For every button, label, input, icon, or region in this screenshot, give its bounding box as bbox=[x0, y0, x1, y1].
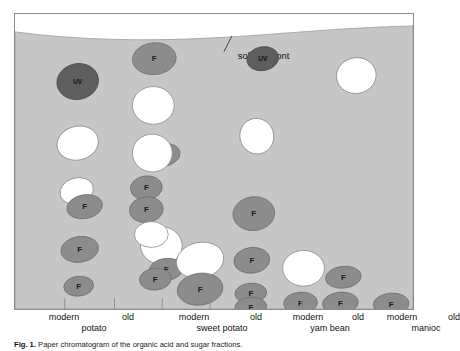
axis-crop-label: potato bbox=[81, 322, 106, 334]
chromatogram-plate: solvent front UVFFFFFFFFFFUVFFFFFFFF bbox=[15, 14, 413, 309]
white-spot-shape bbox=[134, 222, 168, 248]
white-spot-shape bbox=[132, 134, 172, 172]
white-spot-shape bbox=[283, 250, 325, 286]
axis-lane-label: old bbox=[448, 311, 460, 323]
crop-label-row: potatosweet potatoyam beanmanioc bbox=[14, 322, 414, 334]
axis-labels: modernoldmodernoldmodernoldmodernold pot… bbox=[14, 311, 414, 337]
figure-caption: Fig. 1. Paper chromatogram of the organi… bbox=[14, 340, 424, 351]
axis-crop-label: manioc bbox=[411, 322, 440, 334]
axis-crop-label: yam bean bbox=[310, 322, 350, 334]
caption-label: Fig. 1. bbox=[14, 340, 36, 349]
chromatogram-spot bbox=[132, 87, 174, 125]
white-spot-shape bbox=[132, 87, 174, 125]
caption-text: Paper chromatogram of the organic acid a… bbox=[38, 340, 242, 349]
chromatogram-spot bbox=[132, 134, 172, 172]
chromatogram-panel: solvent front UVFFFFFFFFFFUVFFFFFFFF bbox=[14, 13, 414, 310]
chromatogram-spot bbox=[283, 250, 325, 286]
axis-crop-label: sweet potato bbox=[196, 322, 247, 334]
chromatogram-spot bbox=[134, 222, 168, 248]
